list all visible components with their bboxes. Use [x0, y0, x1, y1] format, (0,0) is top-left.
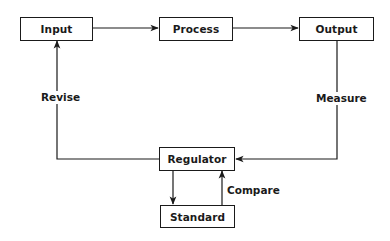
edge-label-revise: Revise	[40, 91, 81, 104]
node-output-label: Output	[315, 23, 357, 35]
node-output: Output	[299, 17, 374, 41]
edge-label-measure: Measure	[315, 92, 368, 105]
edge-label-compare: Compare	[226, 184, 281, 197]
node-process-label: Process	[173, 23, 220, 35]
node-standard: Standard	[160, 205, 235, 228]
node-regulator: Regulator	[159, 147, 235, 171]
node-regulator-label: Regulator	[167, 153, 226, 165]
node-standard-label: Standard	[170, 211, 225, 223]
diagram-canvas: Input Process Output Regulator Standard …	[0, 0, 390, 241]
node-process: Process	[159, 17, 233, 41]
node-input-label: Input	[41, 23, 73, 35]
node-input: Input	[20, 17, 93, 41]
